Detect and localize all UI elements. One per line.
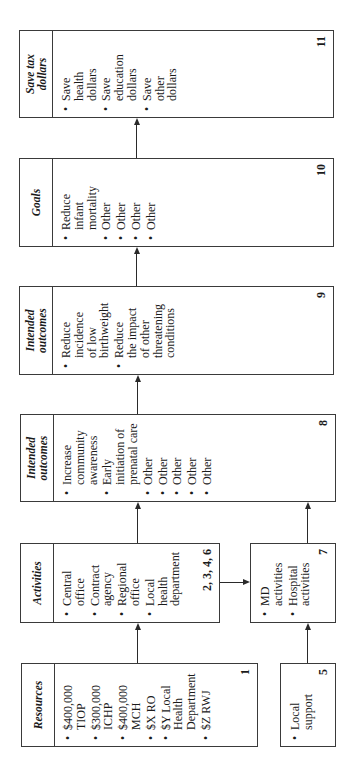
box-number: 7 <box>316 549 331 555</box>
list-item: $Y Local Health Department <box>160 668 198 740</box>
list-item: Reduce the impact of other threatening c… <box>113 291 177 368</box>
box-header: Resources <box>22 664 55 746</box>
box-number: 2, 3, 4, 6 <box>200 549 215 591</box>
list-item: Contract agency <box>89 548 115 616</box>
list-item: Other <box>130 163 143 240</box>
list-item: Other <box>115 163 128 240</box>
arrow-resources-to-activities <box>137 630 138 663</box>
arrowhead-icon <box>243 580 250 586</box>
list-item: MD activities <box>259 548 285 616</box>
arrow-goals-to-save-tax-dollars <box>136 125 137 158</box>
box-items: MD activities Hospital activities <box>259 548 314 616</box>
list-item: Central office <box>61 548 87 616</box>
arrowhead-icon <box>305 502 311 509</box>
arrow-local-support-to-md-activities <box>307 630 308 663</box>
box-number: 11 <box>314 36 329 47</box>
arrowhead-icon <box>305 623 311 630</box>
md-hospital-activities-box: MD activities Hospital activities 7 <box>250 543 336 623</box>
list-item: Other <box>171 419 184 495</box>
box-header: Intended outcomes <box>21 415 54 501</box>
list-item: Regional office <box>116 548 142 616</box>
box-header: Goals <box>20 159 53 246</box>
list-item: Other <box>145 163 158 240</box>
box-header: Save tax dollars <box>20 31 53 117</box>
box-items: Central office Contract agency Regional … <box>61 548 184 616</box>
list-item: $400,000 TIOP <box>62 668 88 740</box>
box-number: 1 <box>238 669 253 675</box>
list-item: Other <box>142 419 155 495</box>
box-items: Increase community awareness Early initi… <box>61 419 216 495</box>
arrowhead-icon <box>135 623 141 630</box>
list-item: Hospital activities <box>287 548 313 616</box>
box-header: Intended outcomes <box>20 287 53 374</box>
list-item: $X RO <box>145 668 158 740</box>
box-number: 9 <box>314 292 329 298</box>
list-item: Local health department <box>144 548 182 616</box>
list-item: Other <box>201 419 214 495</box>
intended-outcomes-box-8: Intended outcomes Increase community awa… <box>20 414 336 502</box>
arrow-activities-to-outcomes-8 <box>137 509 138 543</box>
arrow-outcomes-9-to-goals <box>136 254 137 286</box>
box-items: Local support <box>289 668 317 740</box>
list-item: Reduce incidence of low birthweight <box>60 291 111 368</box>
list-item: Save education dollars <box>100 35 138 111</box>
activities-box: Activities Central office Contract agenc… <box>20 543 220 623</box>
box-items: Reduce infant mortality Other Other Othe… <box>60 163 160 240</box>
arrow-activities-to-md-activities <box>220 582 243 583</box>
list-item: $300,000 ICHP <box>90 668 116 740</box>
logic-model-diagram: Resources $400,000 TIOP $300,000 ICHP $4… <box>0 0 353 759</box>
arrow-md-activities-to-outcomes-8 <box>307 509 308 543</box>
box-items: Save health dollars Save education dolla… <box>60 35 181 111</box>
list-item: Increase community awareness <box>61 419 99 495</box>
save-tax-dollars-box: Save tax dollars Save health dollars Sav… <box>19 30 334 118</box>
local-support-box: Local support 5 <box>280 663 336 747</box>
list-item: Save health dollars <box>60 35 98 111</box>
list-item: Reduce infant mortality <box>60 163 98 240</box>
arrowhead-icon <box>135 375 141 382</box>
arrowhead-icon <box>135 502 141 509</box>
arrowhead-icon <box>134 118 140 125</box>
box-number: 8 <box>316 420 331 426</box>
box-items: Reduce incidence of low birthweight Redu… <box>60 291 179 368</box>
arrowhead-icon <box>134 247 140 254</box>
list-item: Other <box>157 419 170 495</box>
list-item: $Z RWJ <box>200 668 213 740</box>
list-item: $400,000 MCH <box>117 668 143 740</box>
list-item: Early initiation of prenatal care <box>101 419 139 495</box>
arrow-outcomes-8-to-outcomes-9 <box>137 382 138 414</box>
box-items: $400,000 TIOP $300,000 ICHP $400,000 MCH… <box>62 668 215 740</box>
list-item: Other <box>186 419 199 495</box>
goals-box: Goals Reduce infant mortality Other Othe… <box>19 158 334 247</box>
box-number: 5 <box>316 669 331 675</box>
resources-box: Resources $400,000 TIOP $300,000 ICHP $4… <box>21 663 258 747</box>
box-header: Activities <box>21 544 54 622</box>
list-item: Other <box>100 163 113 240</box>
list-item: Save other dollars <box>141 35 179 111</box>
box-number: 10 <box>314 164 329 176</box>
list-item: Local support <box>289 668 315 740</box>
intended-outcomes-box-9: Intended outcomes Reduce incidence of lo… <box>19 286 334 375</box>
